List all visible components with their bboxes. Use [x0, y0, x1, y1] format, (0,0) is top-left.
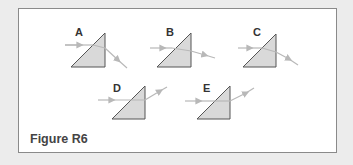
prism-a: A [65, 26, 127, 68]
prism-d: D [98, 82, 167, 119]
prism-c: C [238, 26, 298, 67]
prism-label-a: A [75, 26, 83, 38]
prism-label-d: D [113, 82, 121, 94]
prism-e: E [185, 82, 254, 119]
prism-label-b: B [166, 26, 174, 38]
prism-label-e: E [203, 82, 210, 94]
figure-caption: Figure R6 [30, 132, 88, 146]
prism-label-c: C [253, 26, 261, 38]
prism-b: B [150, 26, 215, 67]
